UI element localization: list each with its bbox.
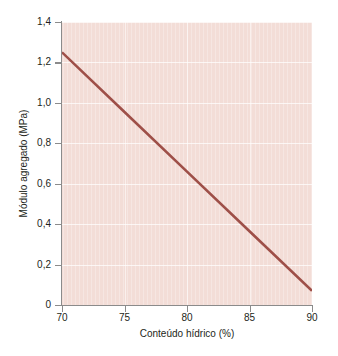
x-tick-label: 80 [181, 313, 192, 323]
y-tick-label: 1,4 [37, 17, 51, 27]
y-tick-mark [55, 265, 61, 266]
y-axis-line [61, 21, 62, 306]
y-tick-mark [55, 224, 61, 225]
y-tick-mark [55, 62, 61, 63]
y-tick-mark [55, 22, 61, 23]
x-tick-label: 75 [119, 313, 130, 323]
y-axis-title: Módulo agregado (MPa) [16, 22, 32, 305]
y-tick-label: 0,2 [37, 260, 51, 270]
x-tick-label: 85 [244, 313, 255, 323]
data-line [62, 52, 312, 291]
x-tick-label: 70 [56, 313, 67, 323]
chart-figure: 00,20,40,60,81,01,21,4 7075808590 Módulo… [0, 0, 338, 356]
x-tick-label: 90 [306, 313, 317, 323]
y-tick-label: 1,2 [37, 57, 51, 67]
y-tick-mark [55, 143, 61, 144]
y-tick-label: 0,6 [37, 179, 51, 189]
y-tick-mark [55, 305, 61, 306]
series-layer [62, 22, 312, 305]
y-tick-label: 0,8 [37, 138, 51, 148]
y-tick-label: 1,0 [37, 98, 51, 108]
y-tick-mark [55, 184, 61, 185]
y-tick-label: 0 [45, 300, 51, 310]
y-tick-mark [55, 103, 61, 104]
y-tick-label: 0,4 [37, 219, 51, 229]
plot-area [62, 22, 312, 305]
x-axis-title: Conteúdo hídrico (%) [62, 329, 312, 339]
